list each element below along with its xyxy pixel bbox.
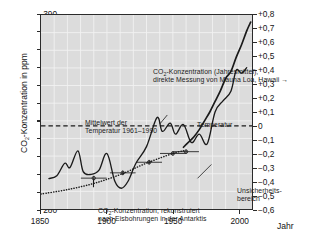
y-right-tick-label: −0,1 [258, 136, 274, 144]
y-right-tick-mark [253, 182, 257, 183]
y-right-tick-mark [253, 28, 257, 29]
y-right-tick-mark [253, 112, 257, 113]
annotation-temperatur: Temperatur [197, 121, 232, 129]
y-right-tick-label: +0,7 [258, 24, 274, 32]
y-right-tick-label: +0,5 [258, 52, 274, 60]
x-axis-title: Jahr [277, 221, 294, 231]
plot-area: CO2-Konzentration (Jahresmittel),direkte… [40, 14, 253, 210]
subscript-2: 2 [108, 210, 111, 216]
subscript-2: 2 [163, 71, 166, 77]
y-right-tick-label: 0 [258, 122, 263, 130]
x-tick-label: 1850 [20, 217, 60, 225]
y-right-tick-mark [253, 14, 257, 15]
x-tick-label: 2000 [220, 217, 260, 225]
x-tick-mark [239, 210, 240, 214]
y-right-tick-mark [253, 126, 257, 127]
y-right-tick-mark [253, 154, 257, 155]
y-right-tick-label: −0,2 [258, 150, 274, 158]
y-right-tick-label: +0,1 [258, 108, 274, 116]
y-right-tick-label: +0,2 [258, 94, 274, 102]
y-right-tick-label: −0,3 [258, 164, 274, 172]
chart-figure: 280290300310320330340350360370380390 −0,… [0, 0, 314, 237]
annotation-mittelwert: Mittelwert derTemperatur 1961–1990 [85, 119, 157, 135]
y-right-tick-mark [253, 56, 257, 57]
y-right-tick-label: +0,6 [258, 38, 274, 46]
y-right-tick-label: −0,4 [258, 178, 274, 186]
y-right-tick-mark [253, 140, 257, 141]
annotation-mauna-loa: CO2-Konzentration (Jahresmittel),direkte… [153, 68, 288, 84]
y-right-tick-mark [253, 210, 257, 211]
x-tick-mark [40, 210, 41, 214]
annotation-eisbohrungen: CO2-Konzentration, rekonstruiertnach Eis… [98, 207, 207, 223]
y-right-tick-mark [253, 42, 257, 43]
data-series-layer [41, 15, 252, 209]
y-axis-left-title: CO2-Konzentration in ppm [19, 43, 29, 163]
subscript-2: 2 [24, 137, 30, 140]
annotation-unsicherheitsbereich: Unsicherheits-bereich [237, 187, 282, 203]
y-right-tick-label: +0,8 [258, 10, 274, 18]
y-right-tick-mark [253, 98, 257, 99]
y-right-tick-mark [253, 168, 257, 169]
y-right-tick-label: −0,6 [258, 206, 274, 214]
